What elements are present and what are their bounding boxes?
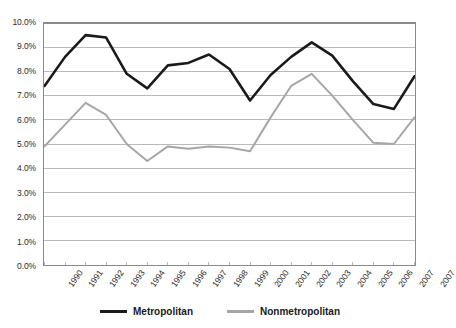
y-tick-label: 7.0% [17, 90, 36, 100]
series-line-metropolitan [44, 35, 414, 109]
plot-area [43, 22, 416, 266]
legend-label-metropolitan: Metropolitan [133, 306, 193, 317]
y-tick-label: 2.0% [17, 212, 36, 222]
x-tick-label: 1995 [169, 268, 188, 289]
x-axis: 1990199119921993199419951996199719981999… [43, 268, 416, 304]
x-tick-label: 1998 [231, 268, 250, 289]
x-tick-label: 2002 [313, 268, 332, 289]
x-tick-label: 1993 [127, 268, 146, 289]
x-tick-label: 2006 [396, 268, 415, 289]
x-tick-label: 1996 [189, 268, 208, 289]
x-tick-label: 2001 [293, 268, 312, 289]
y-tick-label: 9.0% [17, 41, 36, 51]
x-tick-label: 1997 [210, 268, 229, 289]
x-tick-label: 1991 [86, 268, 105, 289]
chart-legend: Metropolitan Nonmetropolitan [0, 300, 440, 322]
x-tick-label: 2000 [272, 268, 291, 289]
y-tick-label: 8.0% [17, 66, 36, 76]
y-tick-label: 3.0% [17, 188, 36, 198]
x-tick-label: 2007 [437, 268, 456, 289]
y-axis: 0.0%1.0%2.0%3.0%4.0%5.0%6.0%7.0%8.0%9.0%… [0, 22, 40, 266]
y-tick-label: 4.0% [17, 163, 36, 173]
y-tick-label: 0.0% [17, 261, 36, 271]
x-tick-label: 1992 [107, 268, 126, 289]
x-tick-label: 2003 [334, 268, 353, 289]
legend-item-nonmetropolitan[interactable]: Nonmetropolitan [227, 306, 340, 317]
legend-line-swatch-metropolitan [100, 310, 127, 313]
x-tick-label: 1990 [65, 268, 84, 289]
x-tick-label: 1999 [251, 268, 270, 289]
x-tick-label: 1994 [148, 268, 167, 289]
y-tick-label: 6.0% [17, 115, 36, 125]
x-tick-label: 2005 [375, 268, 394, 289]
legend-label-nonmetropolitan: Nonmetropolitan [260, 306, 340, 317]
legend-line-swatch-nonmetropolitan [227, 310, 254, 313]
series-lines [44, 23, 415, 265]
y-tick-label: 1.0% [17, 237, 36, 247]
legend-item-metropolitan[interactable]: Metropolitan [100, 306, 193, 317]
x-tick-label: 2004 [355, 268, 374, 289]
y-tick-label: 10.0% [12, 17, 36, 27]
y-tick-label: 5.0% [17, 139, 36, 149]
x-tick-label: 2007 [417, 268, 436, 289]
